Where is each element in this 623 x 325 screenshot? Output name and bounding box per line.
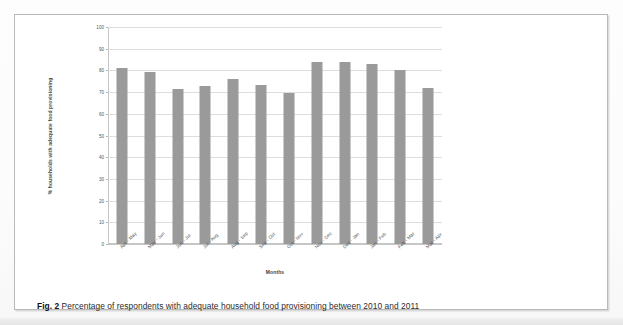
bar (228, 79, 239, 244)
y-tick-label: 100 (96, 25, 104, 30)
y-axis-title: % households with adequate food provisio… (47, 56, 53, 216)
x-axis-title: Months (108, 269, 442, 275)
bar (339, 62, 350, 244)
bar-slot (219, 27, 247, 244)
bar-slot (136, 27, 164, 244)
figure-number: Fig. 2 (37, 301, 59, 311)
figure-frame: % households with adequate food provisio… (14, 14, 608, 310)
figure-caption-text: Percentage of respondents with adequate … (62, 301, 420, 311)
bar-slot (275, 27, 303, 244)
y-tick-label: 40 (99, 155, 104, 160)
bar-chart: % households with adequate food provisio… (15, 15, 609, 277)
bar (423, 88, 434, 244)
bar (200, 86, 211, 244)
y-tick-label: 10 (99, 220, 104, 225)
bar (256, 85, 267, 244)
bar (116, 68, 127, 244)
bar-slot (247, 27, 275, 244)
bar-slot (192, 27, 220, 244)
y-tick-label: 80 (99, 68, 104, 73)
bar (367, 64, 378, 244)
bar-slot (359, 27, 387, 244)
y-tick-label: 60 (99, 111, 104, 116)
bar-slot (414, 27, 442, 244)
bar (144, 72, 155, 245)
bar (172, 89, 183, 244)
bar-slot (386, 27, 414, 244)
y-tick-label: 70 (99, 90, 104, 95)
y-tick-label: 0 (101, 242, 104, 247)
bar (395, 70, 406, 244)
page-bottom-edge (0, 318, 623, 325)
figure-caption: Fig. 2 Percentage of respondents with ad… (37, 301, 617, 312)
bar-slot (303, 27, 331, 244)
bar (283, 93, 294, 244)
y-tick-label: 20 (99, 198, 104, 203)
y-tick-mark-0 (106, 244, 109, 245)
y-tick-label: 50 (99, 133, 104, 138)
bar-slot (108, 27, 136, 244)
y-tick-label: 90 (99, 46, 104, 51)
plot-area: 0102030405060708090100 (108, 27, 442, 244)
bar (311, 62, 322, 244)
bar-series (108, 27, 442, 244)
gridline-0 (108, 244, 442, 245)
bar-slot (331, 27, 359, 244)
y-tick-label: 30 (99, 176, 104, 181)
bar-slot (164, 27, 192, 244)
